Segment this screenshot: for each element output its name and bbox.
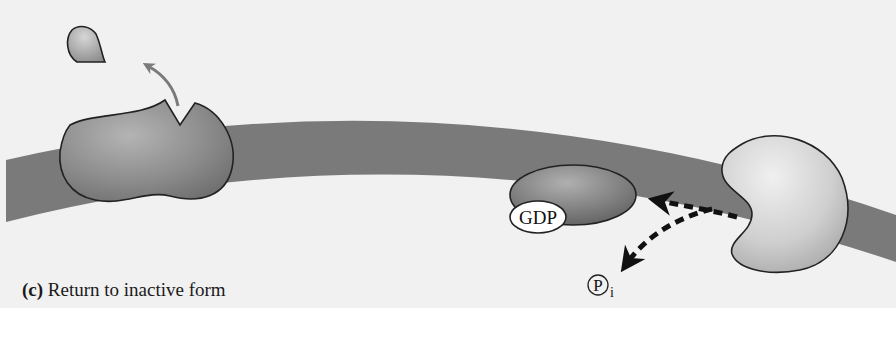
caption-text: Return to inactive form bbox=[48, 279, 226, 300]
figure-caption: (c) Return to inactive form bbox=[22, 279, 226, 301]
phosphate-subscript: i bbox=[610, 285, 614, 300]
membrane-diagram: GDP P i bbox=[0, 0, 896, 308]
panel-letter: (c) bbox=[22, 279, 43, 300]
receptor-icon bbox=[60, 100, 233, 201]
phosphate-release-arrow-icon bbox=[628, 209, 712, 262]
gdp-label: GDP bbox=[519, 207, 557, 228]
ligand-icon bbox=[68, 27, 105, 62]
phosphate-label: P bbox=[593, 276, 602, 295]
ligand-release-arrow-icon bbox=[148, 66, 178, 106]
